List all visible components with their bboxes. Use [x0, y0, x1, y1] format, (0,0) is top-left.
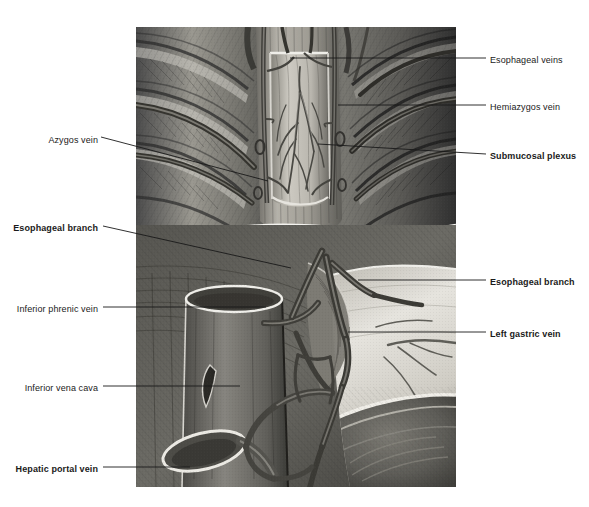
subphrenic-region	[136, 225, 456, 487]
anatomical-illustration	[136, 27, 456, 487]
label-inferior-vena-cava: Inferior vena cava	[0, 383, 98, 394]
label-inferior-phrenic-vein: Inferior phrenic vein	[0, 304, 98, 315]
figure-plate: Azygos vein Esophageal branch Inferior p…	[0, 0, 589, 507]
label-hepatic-portal-vein: Hepatic portal vein	[0, 464, 98, 475]
label-esophageal-branch-left: Esophageal branch	[0, 223, 98, 234]
illustration-artwork	[136, 27, 456, 487]
label-hemiazygos-vein: Hemiazygos vein	[490, 102, 560, 113]
label-esophageal-veins: Esophageal veins	[490, 55, 563, 66]
label-left-gastric-vein: Left gastric vein	[490, 329, 561, 340]
label-esophageal-branch-right: Esophageal branch	[490, 277, 575, 288]
label-azygos-vein: Azygos vein	[0, 135, 98, 146]
label-submucosal-plexus: Submucosal plexus	[490, 151, 576, 162]
